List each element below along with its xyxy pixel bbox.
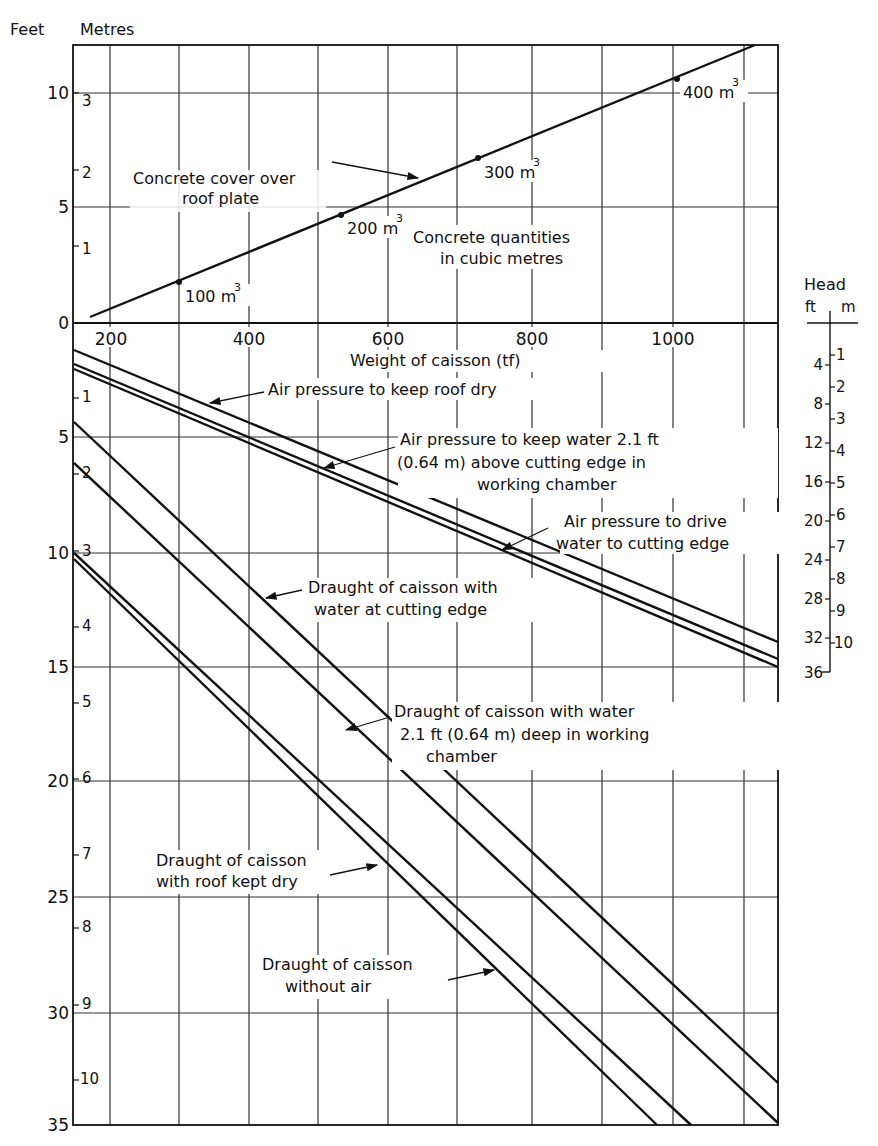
svg-text:400 m: 400 m: [683, 83, 734, 102]
svg-text:3: 3: [234, 281, 241, 294]
svg-text:15: 15: [47, 657, 69, 677]
draught-roof-dry-line: [74, 553, 691, 1125]
svg-text:800: 800: [516, 329, 548, 349]
x-axis-title: Weight of caisson (tf): [350, 351, 520, 370]
svg-text:water to cutting edge: water to cutting edge: [556, 534, 729, 553]
svg-text:in cubic metres: in cubic metres: [440, 249, 563, 268]
svg-text:16: 16: [804, 473, 823, 491]
svg-text:(0.64 m) above cutting edge in: (0.64 m) above cutting edge in: [397, 453, 646, 472]
svg-text:with roof kept dry: with roof kept dry: [156, 872, 298, 891]
svg-text:7: 7: [82, 845, 92, 863]
svg-text:5: 5: [58, 427, 69, 447]
svg-text:30: 30: [47, 1003, 69, 1023]
x-tick-labels: 200 400 600 800 1000: [90, 327, 701, 349]
svg-text:3: 3: [396, 212, 403, 225]
head-ft-label: ft: [805, 298, 816, 316]
svg-text:3: 3: [82, 542, 92, 560]
draught-no-air-line: [74, 559, 657, 1125]
annotation-draught-no-air: Draught of caisson without air: [258, 955, 494, 999]
svg-text:9: 9: [836, 602, 846, 620]
svg-text:1: 1: [836, 346, 846, 364]
svg-text:4: 4: [836, 442, 846, 460]
annotation-air-roof: Air pressure to keep roof dry: [210, 378, 584, 403]
svg-text:4: 4: [813, 356, 823, 374]
svg-text:Air pressure to drive: Air pressure to drive: [564, 512, 727, 531]
svg-text:100 m: 100 m: [185, 287, 236, 306]
svg-text:Concrete cover over: Concrete cover over: [133, 169, 296, 188]
svg-text:10: 10: [834, 634, 853, 652]
svg-text:28: 28: [804, 590, 823, 608]
svg-text:water at cutting edge: water at cutting edge: [314, 600, 487, 619]
svg-text:Draught of caisson: Draught of caisson: [262, 955, 413, 974]
svg-text:5: 5: [58, 197, 69, 217]
svg-text:0: 0: [58, 313, 69, 333]
svg-text:chamber: chamber: [426, 747, 497, 766]
concrete-cover-label: Concrete cover over roof plate: [130, 162, 418, 212]
svg-text:400: 400: [233, 329, 265, 349]
svg-text:10: 10: [80, 1070, 99, 1088]
svg-text:7: 7: [836, 538, 846, 556]
svg-text:without air: without air: [285, 977, 371, 996]
annotation-air-drive: Air pressure to drive water to cutting e…: [502, 512, 792, 554]
svg-text:3: 3: [82, 92, 92, 110]
svg-text:1: 1: [82, 388, 92, 406]
svg-text:2: 2: [836, 378, 846, 396]
svg-text:6: 6: [836, 506, 846, 524]
svg-text:20: 20: [47, 771, 69, 791]
svg-text:8: 8: [82, 918, 92, 936]
svg-text:12: 12: [804, 434, 823, 452]
svg-text:Air pressure to keep water 2.: Air pressure to keep water 2.1 ft: [400, 430, 659, 449]
svg-text:32: 32: [804, 629, 823, 647]
svg-text:3: 3: [836, 410, 846, 428]
svg-text:Draught of caisson with: Draught of caisson with: [308, 578, 498, 597]
annotation-draught-roof: Draught of caisson with roof kept dry: [152, 850, 377, 894]
svg-text:5: 5: [82, 693, 92, 711]
concrete-quantities-note: Concrete quantities in cubic metres: [410, 225, 588, 269]
caisson-chart: Feet Metres 10 5 0 5 10 15 20 25 30 35 3…: [0, 0, 878, 1146]
annotation-draught-deep: Draught of caisson with water 2.1 ft (0.…: [346, 702, 782, 770]
svg-text:3: 3: [732, 76, 739, 89]
svg-text:10: 10: [47, 83, 69, 103]
annotation-draught-edge: Draught of caisson with water at cutting…: [266, 578, 534, 622]
svg-text:8: 8: [813, 395, 823, 413]
svg-text:Concrete quantities: Concrete quantities: [413, 228, 570, 247]
svg-text:2: 2: [82, 164, 92, 182]
feet-tick-labels: 10 5 0 5 10 15 20 25 30 35: [47, 83, 69, 1135]
feet-axis-title: Feet: [10, 20, 44, 39]
svg-text:36: 36: [804, 664, 823, 682]
svg-text:Draught of caisson with water: Draught of caisson with water: [394, 702, 635, 721]
svg-text:300 m: 300 m: [484, 163, 535, 182]
svg-text:10: 10: [47, 543, 69, 563]
svg-text:roof plate: roof plate: [182, 189, 259, 208]
svg-text:20: 20: [804, 512, 823, 530]
metre-tick-labels: 3 2 1 1 2 3 4 5 6 7 8 9 10: [80, 92, 99, 1088]
svg-text:working chamber: working chamber: [477, 475, 617, 494]
head-m-label: m: [841, 298, 856, 316]
svg-text:9: 9: [82, 995, 92, 1013]
svg-text:Draught of caisson: Draught of caisson: [156, 851, 307, 870]
svg-text:1: 1: [82, 240, 92, 258]
metres-axis-title: Metres: [80, 20, 134, 39]
svg-text:600: 600: [372, 329, 404, 349]
head-scale: Head ft m 4 8 12: [804, 275, 858, 682]
svg-text:4: 4: [82, 617, 92, 635]
svg-text:3: 3: [533, 156, 540, 169]
svg-text:8: 8: [836, 570, 846, 588]
svg-text:35: 35: [47, 1115, 69, 1135]
head-title: Head: [804, 275, 846, 294]
svg-text:Air pressure to keep roof dry: Air pressure to keep roof dry: [268, 380, 497, 399]
svg-text:200 m: 200 m: [347, 219, 398, 238]
svg-text:1000: 1000: [651, 329, 694, 349]
svg-text:25: 25: [47, 887, 69, 907]
svg-text:24: 24: [804, 551, 823, 569]
svg-text:5: 5: [836, 474, 846, 492]
svg-text:2.1 ft (0.64 m) deep in workin: 2.1 ft (0.64 m) deep in working: [400, 725, 649, 744]
annotation-air-water: Air pressure to keep water 2.1 ft (0.64 …: [324, 428, 778, 498]
svg-text:6: 6: [82, 769, 92, 787]
svg-text:200: 200: [95, 329, 127, 349]
